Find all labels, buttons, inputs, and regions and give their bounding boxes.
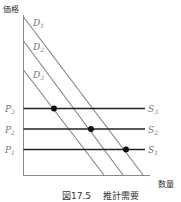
- label-s3: S3: [148, 104, 158, 115]
- figure-caption-title: 推計需要: [103, 190, 139, 201]
- label-p1: P1: [4, 145, 15, 156]
- y-axis-label: 価格: [3, 4, 19, 14]
- label-s2: S2: [148, 125, 158, 136]
- label-d2: D2: [32, 42, 44, 53]
- estimated-demand-diagram: D1 D2 D3 P3 P2 P1 S3 S2 S1 価格 数量 図17.5 推…: [0, 0, 181, 202]
- equilibrium-point-1: [123, 147, 129, 153]
- label-p2: P2: [4, 125, 15, 136]
- demand-curve-d3: [24, 70, 105, 175]
- x-axis-label: 数量: [158, 179, 174, 189]
- label-p3: P3: [4, 104, 15, 115]
- equilibrium-point-2: [88, 126, 94, 132]
- figure-caption-number: 図17.5: [62, 191, 91, 201]
- label-s1: S1: [148, 145, 158, 156]
- equilibrium-point-3: [51, 106, 57, 112]
- label-d3: D3: [32, 70, 44, 81]
- label-d1: D1: [32, 18, 44, 29]
